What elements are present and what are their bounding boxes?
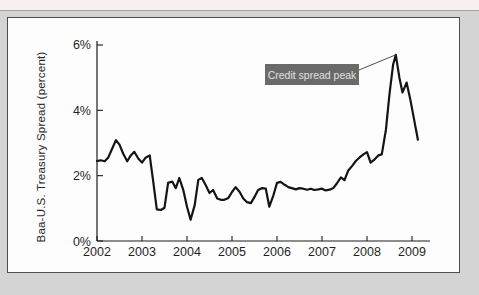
y-axis-title: Baa-U.S. Treasury Spread (percent) <box>35 52 47 243</box>
page: 0%2%4%6%20022003200420052006200720082009… <box>0 0 479 295</box>
spread-series-line <box>97 55 418 220</box>
x-tick-label: 2003 <box>128 245 156 259</box>
x-tick-label: 2007 <box>308 245 336 259</box>
annotation-leader-line <box>359 55 396 70</box>
y-tick-label: 4% <box>73 104 91 118</box>
x-tick-label: 2009 <box>398 245 426 259</box>
y-tick-label: 2% <box>73 169 91 183</box>
x-tick-label: 2004 <box>173 245 201 259</box>
x-tick-label: 2005 <box>218 245 246 259</box>
annotation-credit-spread-peak: Credit spread peak <box>265 64 359 85</box>
x-tick-label: 2002 <box>83 245 111 259</box>
x-tick-label: 2008 <box>353 245 381 259</box>
y-tick-label: 6% <box>73 38 91 52</box>
x-tick-label: 2006 <box>263 245 291 259</box>
spread-line-chart: 0%2%4%6%20022003200420052006200720082009 <box>0 0 479 295</box>
annotation-label: Credit spread peak <box>268 69 357 81</box>
